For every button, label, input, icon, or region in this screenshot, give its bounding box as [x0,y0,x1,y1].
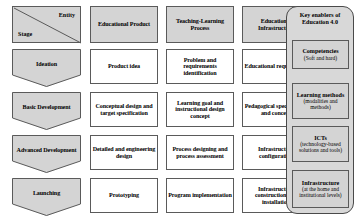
stage-advanced-development: Advanced Development [12,135,81,173]
stage-launching: Launching [12,178,81,216]
cell-ideation-teaching-learning-process: Problem and requirements identification [166,49,234,84]
column-header-educational-product: Educational Product [90,6,158,43]
key-enabler-learning-methods-detail: (modalities and methods) [293,98,348,110]
education-40-matrix-diagram: Entity Stage Educational Product Teachin… [0,0,359,219]
key-enabler-icts-detail: (technology-based solutions and tools) [293,141,348,153]
cell-launching-educational-product: Prototyping [90,178,158,213]
key-enabler-competencies-detail: (Soft and hard) [302,55,338,61]
corner-header-cell: Entity Stage [12,6,81,43]
cell-basic-development-teaching-learning-process: Learning goal and instructional design c… [166,92,234,127]
key-enabler-infrastructure-name: Infrastructure [293,180,348,187]
key-enabler-icts-name: ICTs [293,135,348,142]
key-enabler-competencies-name: Competencies [302,48,338,55]
column-header-teaching-learning-process: Teaching-Learning Process [166,6,234,43]
key-enabler-icts: ICTs (technology-based solutions and too… [292,126,349,162]
key-enabler-learning-methods: Learning methods (modalities and methods… [292,83,349,119]
cell-advanced-development-teaching-learning-process: Process designing and process assessment [166,135,234,170]
key-enabler-competencies: Competencies (Soft and hard) [292,40,349,69]
cell-basic-development-educational-product: Conceptual design and target specificati… [90,92,158,127]
key-enabler-infrastructure-detail: (at the home and institutional levels) [293,186,348,198]
stage-axis-label: Stage [18,31,32,37]
key-enabler-learning-methods-name: Learning methods [293,92,348,99]
key-enabler-infrastructure: Infrastructure (at the home and institut… [292,170,349,208]
stage-basic-development: Basic Development [12,92,81,130]
key-enablers-panel-title: Key enablers of Education 4.0 [287,12,353,26]
cell-launching-teaching-learning-process: Program implementation [166,178,234,213]
cell-ideation-educational-product: Product idea [90,49,158,84]
entity-axis-label: Entity [59,12,75,18]
cell-advanced-development-educational-product: Detailed and engineering design [90,135,158,170]
stage-ideation: Ideation [12,49,81,87]
